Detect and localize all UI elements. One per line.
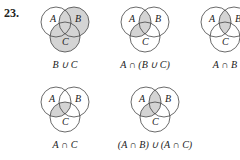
svg-text:B: B xyxy=(165,93,171,104)
caption-a-inter-b-union-c: A ∩ (B ∪ C) xyxy=(120,59,170,70)
label-b: B xyxy=(75,13,81,24)
label-a: A xyxy=(49,13,57,24)
venn-diagram-a-inter-b-union-c: A B C xyxy=(121,7,169,52)
label-c: C xyxy=(62,36,69,47)
svg-text:A: A xyxy=(128,13,136,24)
svg-text:A: A xyxy=(208,13,216,24)
venn-diagrams-canvas: A B C A B C A B C A B C xyxy=(0,0,240,160)
svg-text:C: C xyxy=(152,116,159,127)
venn-diagram-a-inter-c: A B C xyxy=(41,87,89,132)
svg-text:B: B xyxy=(235,13,240,24)
caption-a-inter-c: A ∩ C xyxy=(53,139,78,150)
svg-text:C: C xyxy=(142,36,149,47)
svg-text:B: B xyxy=(155,13,161,24)
caption-a-inter-b: A ∩ B xyxy=(213,59,237,70)
svg-text:C: C xyxy=(222,36,229,47)
svg-text:C: C xyxy=(62,116,69,127)
venn-diagram-a-inter-b-union-a-inter-c: A B C xyxy=(131,87,179,132)
caption-a-inter-b-union-a-inter-c: (A ∩ B) ∪ (A ∩ C) xyxy=(118,139,192,150)
venn-diagram-a-inter-b: A B C xyxy=(201,7,240,52)
svg-text:A: A xyxy=(48,93,56,104)
svg-text:A: A xyxy=(138,93,146,104)
svg-text:B: B xyxy=(75,93,81,104)
caption-b-union-c: B ∪ C xyxy=(53,59,78,70)
venn-diagram-b-union-c: A B C xyxy=(41,7,89,52)
